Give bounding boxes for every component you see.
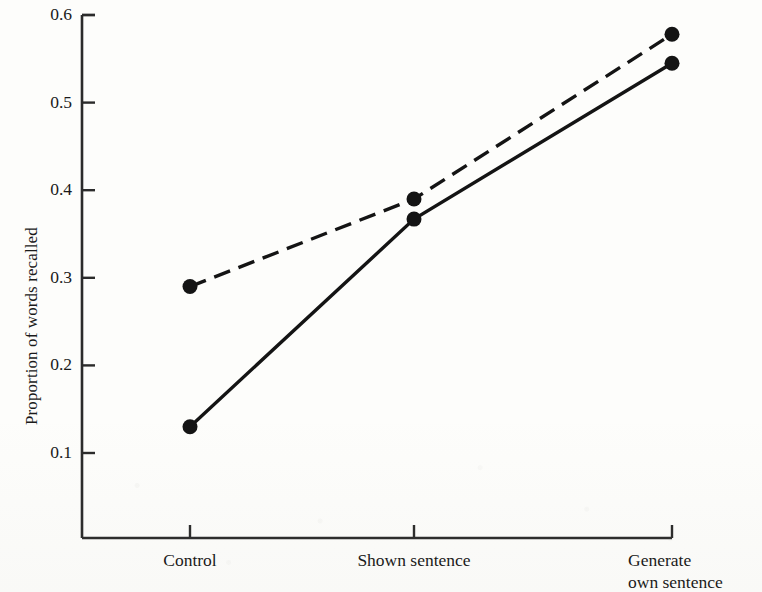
x-tick-label: Generateown sentence xyxy=(628,549,762,592)
x-tick-label-line: own sentence xyxy=(628,571,762,592)
y-tick-label: 0.4 xyxy=(20,179,72,200)
data-point-marker xyxy=(407,212,422,227)
y-tick-label: 0.1 xyxy=(20,442,72,463)
y-axis-title: Proportion of words recalled xyxy=(22,227,42,425)
series-line-dashed-series xyxy=(190,34,672,286)
axes xyxy=(82,15,672,538)
x-tick-label: Control xyxy=(90,549,290,571)
data-point-marker xyxy=(665,27,680,42)
series-line-solid-series xyxy=(190,63,672,427)
data-point-marker xyxy=(183,419,198,434)
y-tick-label: 0.5 xyxy=(20,92,72,113)
x-tick-label-line: Control xyxy=(90,549,290,571)
x-tick-label-line: Generate xyxy=(628,549,762,571)
y-tick-label: 0.6 xyxy=(20,4,72,25)
x-tick-label-line: Shown sentence xyxy=(314,549,514,571)
line-chart-plot xyxy=(0,0,762,592)
data-point-marker xyxy=(665,56,680,71)
data-point-marker xyxy=(407,191,422,206)
data-series xyxy=(183,27,680,434)
x-tick-label: Shown sentence xyxy=(314,549,514,571)
chart-figure: 0.10.20.30.40.50.6 ControlShown sentence… xyxy=(0,0,762,592)
data-point-marker xyxy=(183,279,198,294)
